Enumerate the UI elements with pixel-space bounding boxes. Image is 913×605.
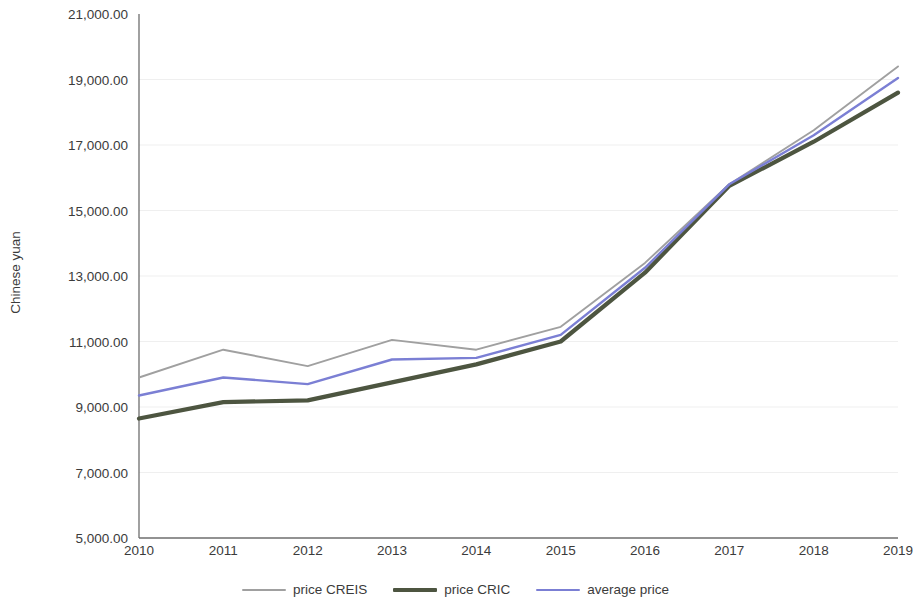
x-axis-tick-label: 2014 [461, 543, 491, 558]
legend-color-swatch [242, 589, 286, 591]
x-axis-tick-label: 2011 [209, 543, 238, 558]
x-axis-tick-label: 2017 [714, 543, 744, 558]
chart-legend: price CREISprice CRICaverage price [0, 583, 911, 597]
legend-label: price CREIS [293, 583, 367, 597]
series-line [139, 66, 898, 377]
x-axis-tick-label: 2016 [630, 543, 660, 558]
legend-item[interactable]: price CRIC [393, 583, 510, 597]
legend-color-swatch [393, 588, 437, 592]
x-axis-tick-label: 2012 [293, 543, 323, 558]
series-line [139, 93, 898, 419]
x-axis-tick-label: 2019 [883, 543, 913, 558]
legend-item[interactable]: price CREIS [242, 583, 367, 597]
x-axis-tick-label: 2018 [799, 543, 829, 558]
legend-color-swatch [536, 589, 580, 591]
x-axis-tick-label: 2013 [377, 543, 407, 558]
x-axis-tick-label: 2015 [546, 543, 576, 558]
legend-label: price CRIC [444, 583, 510, 597]
x-axis-tick-labels: 2010201120122013201420152016201720182019 [0, 543, 911, 567]
legend-item[interactable]: average price [536, 583, 669, 597]
series-line [139, 78, 898, 396]
gridlines [139, 80, 898, 473]
x-axis-tick-label: 2010 [124, 543, 154, 558]
legend-label: average price [587, 583, 669, 597]
